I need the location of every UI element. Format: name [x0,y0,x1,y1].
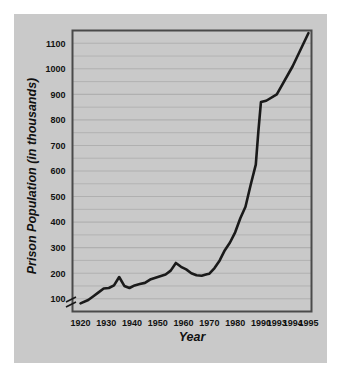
x-axis-title: Year [179,330,207,344]
x-tick-label: 1970 [199,318,219,328]
x-tick-label: 1930 [96,318,116,328]
y-tick-label: 100 [50,294,65,304]
y-axis-title: Prison Population (in thousands) [25,78,39,275]
x-tick-label: 1960 [174,318,194,328]
y-tick-label: 1100 [46,39,66,49]
x-tick-label: 1995 [298,318,318,328]
y-tick-label: 500 [50,192,65,202]
x-tick-label: 1980 [225,318,245,328]
y-axis-tick-labels: 11001000900800700600500400300200100 [45,39,65,304]
y-tick-label: 800 [50,115,65,125]
prison-population-line-chart: 11001000900800700600500400300200100 1920… [0,0,341,377]
x-tick-label: 1950 [148,318,168,328]
data-series-line [81,33,309,303]
y-tick-label: 1000 [45,64,65,74]
y-tick-label: 200 [50,269,65,279]
y-tick-label: 700 [50,141,65,151]
y-tick-label: 300 [50,243,65,253]
x-tick-label: 1940 [122,318,142,328]
chart-page: 11001000900800700600500400300200100 1920… [0,0,341,377]
gridlines-group [73,31,312,299]
x-tick-label: 1920 [70,318,90,328]
x-axis-tick-labels: 1920193019401950196019701980199019931994… [70,318,318,328]
y-axis-break-icon [66,297,76,307]
y-tick-label: 900 [50,90,65,100]
y-tick-label: 600 [50,166,65,176]
y-tick-label: 400 [50,217,65,227]
